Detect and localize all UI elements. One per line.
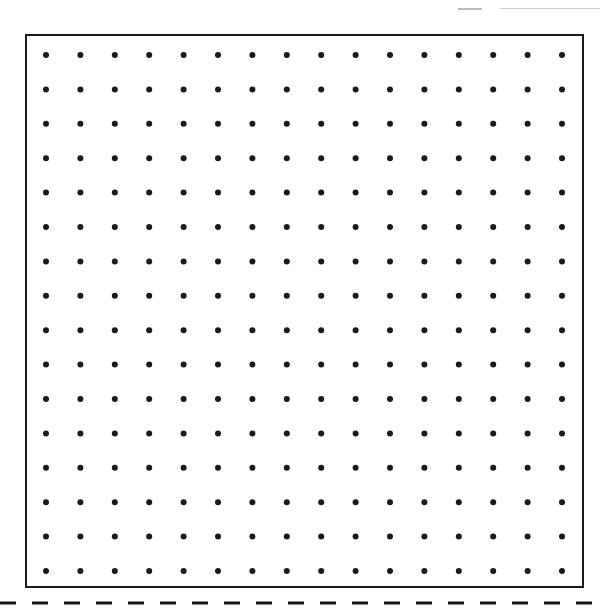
top-page-fragment — [0, 0, 605, 6]
cut-line-dashed — [0, 601, 605, 605]
dot-grid-frame — [25, 34, 584, 588]
cropped-header-icon — [0, 8, 605, 14]
